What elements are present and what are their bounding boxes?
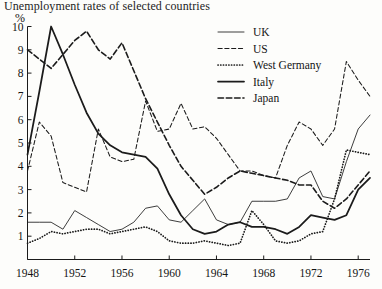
x-axis-tick-label: 1952 bbox=[63, 267, 86, 279]
chart-plot-area: 12345678910 1948195219561960196419681972… bbox=[0, 0, 382, 289]
legend-label-west-germany: West Germany bbox=[253, 59, 322, 72]
series-line-italy bbox=[28, 27, 371, 234]
y-axis-ticks: 12345678910 bbox=[12, 21, 32, 243]
series-line-us bbox=[28, 61, 371, 191]
y-axis-tick-label: 6 bbox=[18, 114, 24, 126]
y-axis-tick-label: 8 bbox=[18, 67, 24, 79]
unemployment-rates-chart: Unemployment rates of selected countries… bbox=[0, 0, 382, 289]
y-axis-tick-label: 2 bbox=[18, 207, 24, 219]
y-axis-tick-label: 4 bbox=[18, 160, 24, 172]
legend-label-italy: Italy bbox=[253, 76, 274, 89]
series-line-japan bbox=[28, 31, 371, 208]
x-axis-tick-label: 1972 bbox=[299, 267, 322, 279]
y-axis-tick-label: 1 bbox=[18, 230, 24, 242]
legend-label-us: US bbox=[253, 43, 268, 55]
legend-label-japan: Japan bbox=[253, 92, 279, 105]
y-axis-tick-label: 10 bbox=[12, 21, 24, 33]
x-axis-tick-label: 1976 bbox=[347, 267, 370, 279]
x-axis-ticks: 19481952195619601964196819721976 bbox=[16, 256, 370, 279]
x-axis-tick-label: 1948 bbox=[16, 267, 39, 279]
y-axis-tick-label: 9 bbox=[18, 44, 24, 56]
x-axis-tick-label: 1964 bbox=[205, 267, 228, 279]
series-line-uk bbox=[28, 115, 371, 231]
x-axis-tick-label: 1968 bbox=[252, 267, 275, 279]
legend-label-uk: UK bbox=[253, 26, 270, 38]
x-axis-tick-label: 1960 bbox=[158, 267, 181, 279]
y-axis-tick-label: 7 bbox=[18, 90, 24, 102]
chart-legend: UKUSWest GermanyItalyJapan bbox=[218, 26, 322, 105]
y-axis-tick-label: 3 bbox=[18, 184, 24, 196]
x-axis-tick-label: 1956 bbox=[110, 267, 133, 279]
y-axis-tick-label: 5 bbox=[18, 137, 24, 149]
